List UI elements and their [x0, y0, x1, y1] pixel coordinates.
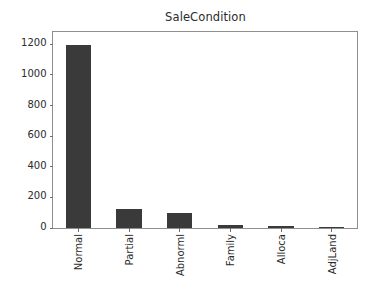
x-tick-mark: [331, 228, 332, 232]
bar-chart-figure: SaleCondition 020040060080010001200 Norm…: [0, 0, 389, 289]
chart-title: SaleCondition: [52, 10, 359, 24]
y-tick-label: 1200: [21, 37, 46, 48]
y-tick-label: 800: [27, 99, 46, 110]
x-tick-mark: [179, 228, 180, 232]
x-tick-label: Partial: [124, 234, 135, 265]
bar: [66, 45, 91, 228]
x-tick-mark: [129, 228, 130, 232]
bar: [268, 226, 293, 228]
bars-layer: [53, 32, 357, 228]
x-tick-mark: [78, 228, 79, 232]
x-tick-label: Alloca: [276, 234, 287, 264]
x-tick-mark: [281, 228, 282, 232]
y-tick-label: 0: [40, 221, 46, 232]
plot-area: 020040060080010001200 NormalPartialAbnor…: [52, 31, 358, 229]
y-tick-label: 1000: [21, 68, 46, 79]
y-tick-label: 400: [27, 160, 46, 171]
y-tick-label: 600: [27, 129, 46, 140]
x-tick-label: AdjLand: [326, 234, 337, 274]
y-tick-label: 200: [27, 190, 46, 201]
x-tick-label: Family: [225, 234, 236, 266]
bar: [218, 225, 243, 228]
x-tick-label: Normal: [73, 234, 84, 270]
x-tick-label: Abnorml: [174, 234, 185, 276]
bar: [116, 209, 141, 228]
bar: [167, 213, 192, 228]
x-tick-mark: [230, 228, 231, 232]
bar: [319, 227, 344, 228]
